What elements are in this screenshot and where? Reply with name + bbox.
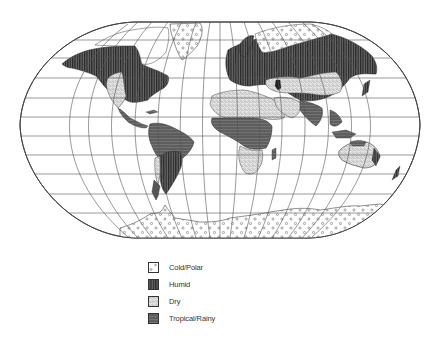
legend-label-humid: Humid (169, 280, 190, 289)
legend-item-dry: Dry (148, 293, 215, 310)
dark-swatch-icon (148, 313, 159, 324)
legend-label-dry: Dry (169, 297, 180, 306)
world-climate-map (0, 0, 434, 250)
legend-item-cold: Cold/Polar (148, 259, 215, 276)
dotted-swatch-icon (148, 262, 159, 273)
legend-item-tropical: Tropical/Rainy (148, 310, 215, 327)
legend-label-cold: Cold/Polar (169, 263, 203, 272)
stippled-swatch-icon (148, 296, 159, 307)
madagascar-tropical (272, 148, 276, 160)
legend-item-humid: Humid (148, 276, 215, 293)
map-legend: Cold/Polar Humid Dry Tropical/Rainy (148, 259, 215, 327)
australia-tropical-north (350, 141, 366, 147)
legend-label-tropical: Tropical/Rainy (169, 314, 215, 323)
striped-swatch-icon (148, 279, 159, 290)
